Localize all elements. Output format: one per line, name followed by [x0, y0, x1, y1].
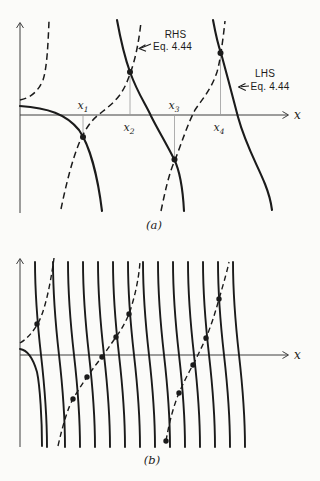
x-axis-label: x — [294, 108, 301, 122]
intersection-dot — [84, 374, 89, 379]
x-axis-label: x — [294, 348, 301, 362]
rhs-label-line2: Eq. 4.44 — [153, 41, 192, 52]
panel-caption: (a) — [146, 218, 162, 232]
intersection-dot — [190, 362, 195, 367]
rhs-dashed-curve — [20, 21, 49, 100]
tick-label-x1: x1 — [78, 99, 89, 114]
textbook-figure-page: RHSEq. 4.44LHSEq. 4.44x1x2x3x4x(a) x(b) — [0, 0, 320, 481]
rhs-pointer-arrow — [141, 44, 152, 48]
intersection-dot — [70, 396, 75, 401]
lhs-solid-curve — [20, 106, 102, 211]
tick-label-x3: x3 — [169, 99, 180, 114]
intersection-dot — [126, 311, 131, 316]
lhs-label-line2: Eq. 4.44 — [251, 81, 290, 92]
panel-b-figure: x(b) — [0, 240, 320, 481]
lhs-label-line1: LHS — [255, 68, 275, 79]
intersection-dot — [216, 296, 221, 301]
rhs-label-line1: RHS — [165, 29, 187, 40]
tick-label-x2: x2 — [124, 121, 135, 136]
lhs-solid-curve — [20, 349, 42, 446]
intersection-dot — [99, 354, 104, 359]
rhs-pointer-arrow-head-icon — [139, 45, 146, 52]
intersection-dot — [218, 50, 224, 56]
intersection-dot — [113, 334, 118, 339]
intersection-dot — [80, 134, 86, 140]
tick-label-x4: x4 — [214, 121, 225, 136]
panel-a-figure: RHSEq. 4.44LHSEq. 4.44x1x2x3x4x(a) — [0, 0, 320, 240]
intersection-dot — [34, 321, 39, 326]
intersection-dot — [176, 390, 181, 395]
intersection-dot — [127, 69, 133, 75]
panel-caption: (b) — [144, 453, 160, 467]
intersection-dot — [163, 438, 168, 443]
intersection-dot — [203, 335, 208, 340]
lhs-pointer-arrow — [241, 86, 249, 87]
intersection-dot — [172, 157, 178, 163]
